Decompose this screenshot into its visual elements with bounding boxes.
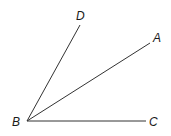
ray-bd: [27, 25, 80, 121]
vertex-label-b: B: [12, 115, 20, 129]
point-label-a: A: [152, 31, 161, 45]
point-label-c: C: [149, 115, 158, 129]
angle-diagram: B D A C: [0, 0, 171, 136]
ray-ba: [27, 43, 150, 121]
point-label-d: D: [76, 9, 85, 23]
